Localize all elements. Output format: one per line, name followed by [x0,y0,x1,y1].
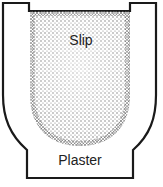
slip-casting-diagram: Slip Plaster [0,0,163,187]
slip-label: Slip [69,32,93,48]
plaster-label: Plaster [58,152,102,168]
slip-region [28,10,132,150]
